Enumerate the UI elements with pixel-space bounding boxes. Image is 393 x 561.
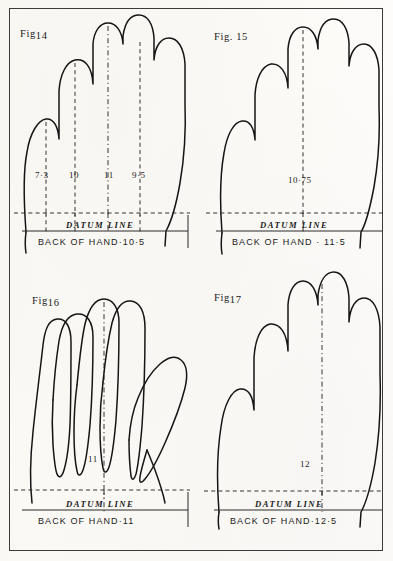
fig17-caption: BACK OF HAND·12·5: [230, 517, 337, 526]
fig15-caption: BACK OF HAND · 11·5: [232, 238, 346, 247]
fig14-caption: BACK OF HAND·10·5: [38, 238, 145, 247]
fig15-datum-label: DATUM LINE: [260, 221, 328, 230]
fig17-datum-label: DATUM LINE: [255, 500, 323, 509]
fig15-label: Fig. 15: [214, 32, 248, 43]
fig14-measure-middle: 11: [104, 171, 114, 180]
fig16-datum-label: DATUM LINE: [66, 500, 134, 509]
fig14-measure-ring: 10: [69, 171, 79, 180]
fig16-caption: BACK OF HAND·11: [38, 517, 134, 526]
fig15-measure-middle: 10·75: [288, 176, 312, 185]
fig17-label: Fig17: [214, 293, 242, 304]
plate-border: [9, 8, 383, 551]
fig14-measure-index: 9·5: [132, 171, 146, 180]
fig14-datum-label: DATUM LINE: [66, 221, 134, 230]
fig16-label: Fig16: [32, 296, 60, 307]
fig14-measure-little: 7·3: [35, 171, 49, 180]
fig17-measure-middle: 12: [300, 460, 310, 469]
fig14-label: Fig14: [20, 29, 48, 40]
fig16-measure-middle: 11: [88, 455, 98, 464]
plate-page: Fig14 7·3 10 11 9·5 DATUM LINE BACK OF H…: [0, 0, 393, 561]
